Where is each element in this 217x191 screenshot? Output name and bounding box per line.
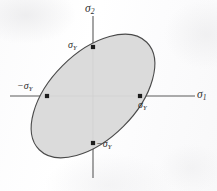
sigma-1-axis-label: σ1 bbox=[197, 89, 206, 101]
sigma-2-subscript: 2 bbox=[91, 7, 95, 16]
right-subscript: Y bbox=[143, 104, 147, 111]
sigma-1-symbol: σ bbox=[197, 88, 203, 100]
bottom-sign: − bbox=[96, 138, 103, 149]
yield-point-right-marker bbox=[138, 94, 142, 98]
left-subscript: Y bbox=[29, 85, 33, 92]
left-symbol: σ bbox=[24, 80, 29, 91]
top-subscript: Y bbox=[73, 44, 77, 51]
yield-point-left-marker bbox=[45, 94, 49, 98]
yield-point-left-label: −σY bbox=[17, 81, 32, 91]
sigma-2-axis-label: σ2 bbox=[85, 3, 94, 15]
yield-point-bottom-label: −σY bbox=[96, 139, 111, 149]
yield-point-top-label: σY bbox=[68, 40, 77, 50]
left-sign: − bbox=[17, 80, 24, 91]
yield-point-bottom-marker bbox=[91, 141, 95, 145]
yield-point-top-marker bbox=[91, 45, 95, 49]
bottom-subscript: Y bbox=[108, 143, 112, 150]
sigma-1-subscript: 1 bbox=[203, 93, 207, 102]
yield-criterion-figure: σ2 σ1 σY −σY σY −σY bbox=[0, 0, 217, 191]
bottom-symbol: σ bbox=[103, 138, 108, 149]
yield-point-right-label: σY bbox=[138, 100, 147, 110]
sigma-2-symbol: σ bbox=[85, 2, 91, 14]
plot-canvas bbox=[0, 0, 217, 191]
